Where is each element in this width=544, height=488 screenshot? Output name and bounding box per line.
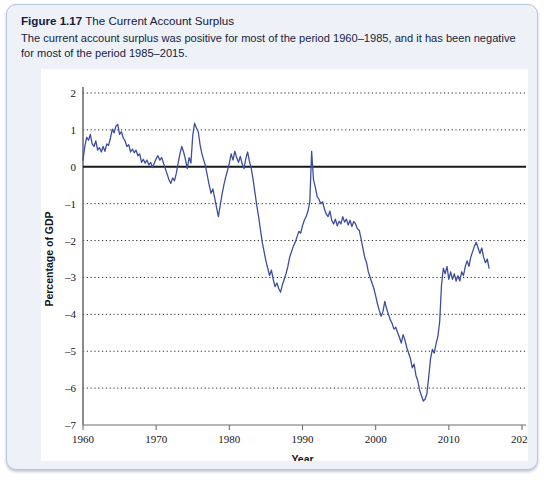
x-tick-label: 1960 — [72, 433, 95, 445]
y-tick-label: 1 — [71, 124, 77, 136]
figure-card: Figure 1.17 The Current Account Surplus … — [6, 4, 538, 470]
y-tick-label: –4 — [64, 308, 77, 320]
current-account-surplus-line-chart: 210–1–2–3–4–5–6–719601970198019902000201… — [41, 69, 528, 461]
data-line-current-account-surplus — [83, 123, 489, 401]
figure-title: Figure 1.17 The Current Account Surplus — [21, 14, 523, 28]
x-tick-label: 1970 — [145, 433, 168, 445]
data-series-layer — [83, 123, 489, 401]
chart-plot-panel: 210–1–2–3–4–5–6–719601970198019902000201… — [41, 69, 528, 461]
figure-title-text: The Current Account Surplus — [85, 14, 234, 27]
axis-lines — [83, 87, 526, 430]
y-tick-label: 0 — [71, 161, 77, 173]
caption-block: Figure 1.17 The Current Account Surplus … — [7, 5, 537, 61]
x-tick-label: 2020 — [511, 433, 528, 445]
y-tick-label: –7 — [64, 419, 77, 431]
y-tick-label: 2 — [71, 87, 77, 99]
figure-number: Figure 1.17 — [21, 14, 82, 27]
x-tick-label: 2000 — [365, 433, 388, 445]
x-tick-label: 1990 — [292, 433, 315, 445]
x-axis-title: Year — [291, 453, 313, 461]
y-axis-title: Percentage of GDP — [43, 211, 55, 306]
y-tick-label: –3 — [64, 271, 77, 283]
tick-labels: 210–1–2–3–4–5–6–719601970198019902000201… — [64, 87, 528, 445]
y-tick-label: –5 — [64, 345, 77, 357]
gridlines — [83, 93, 526, 388]
y-tick-label: –1 — [64, 198, 76, 210]
y-tick-label: –2 — [64, 235, 76, 247]
figure-caption: The current account surplus was positive… — [21, 31, 521, 61]
y-tick-label: –6 — [64, 382, 77, 394]
x-tick-label: 2010 — [438, 433, 461, 445]
x-tick-label: 1980 — [218, 433, 241, 445]
